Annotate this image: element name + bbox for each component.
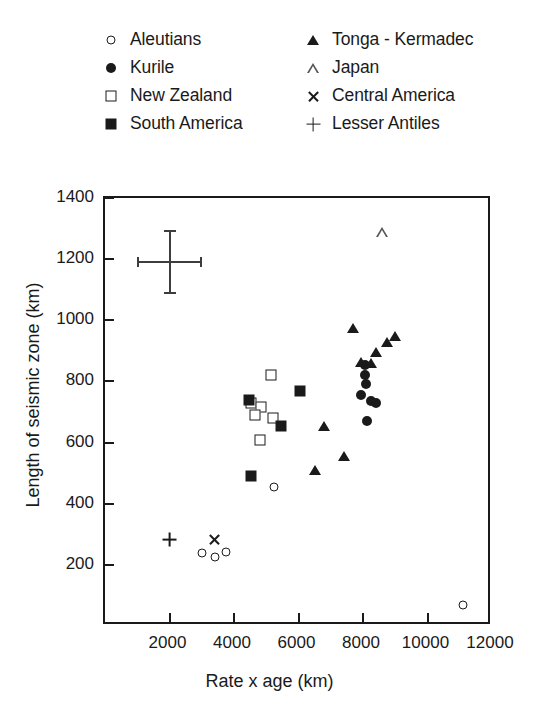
legend-marker-open-circle xyxy=(100,29,122,51)
cross-x-marker-icon xyxy=(208,533,221,546)
cross-x-marker-icon xyxy=(307,90,320,103)
filled-circle-marker-icon xyxy=(371,398,381,408)
y-tick xyxy=(105,319,114,321)
open-triangle-marker-icon xyxy=(376,227,388,237)
error-bar-cap-top xyxy=(164,230,176,232)
plot-area xyxy=(103,196,490,624)
x-tick-label: 4000 xyxy=(213,634,251,651)
legend-item-label: New Zealand xyxy=(130,87,232,105)
filled-circle-marker-icon xyxy=(362,416,372,426)
filled-triangle-marker-icon xyxy=(370,347,382,357)
legend-item-label: Japan xyxy=(332,59,379,77)
y-tick xyxy=(105,197,114,199)
x-tick xyxy=(427,613,429,622)
open-square-marker-icon xyxy=(254,434,265,445)
filled-square-marker-icon xyxy=(244,394,255,405)
filled-circle-marker-icon xyxy=(106,63,116,73)
filled-triangle-marker-icon xyxy=(365,358,377,368)
filled-square-marker-icon xyxy=(246,471,257,482)
legend-item-aleutians[interactable]: Aleutians xyxy=(100,26,243,54)
y-tick-label: 200 xyxy=(10,554,94,571)
legend-item-label: Central America xyxy=(332,87,455,105)
filled-square-marker-icon xyxy=(295,385,306,396)
filled-circle-marker-icon xyxy=(356,390,366,400)
x-tick xyxy=(233,613,235,622)
open-square-marker-icon xyxy=(106,91,117,102)
filled-triangle-marker-icon xyxy=(347,323,359,333)
legend-item-central-america[interactable]: Central America xyxy=(302,82,473,110)
legend-marker-filled-square xyxy=(100,113,122,135)
x-tick-label: 10000 xyxy=(402,634,449,651)
scatter-plot-figure: AleutiansKurileNew ZealandSouth America … xyxy=(0,0,539,718)
legend-item-label: Aleutians xyxy=(130,31,201,49)
x-tick-label: 8000 xyxy=(342,634,380,651)
filled-circle-marker-icon xyxy=(361,379,371,389)
filled-triangle-marker-icon xyxy=(309,465,321,475)
x-tick xyxy=(169,613,171,622)
y-tick-label: 1200 xyxy=(10,249,94,266)
x-tick-label: 6000 xyxy=(278,634,316,651)
error-bar-vertical xyxy=(169,230,171,294)
x-tick-label: 12000 xyxy=(466,634,513,651)
plus-marker-icon xyxy=(307,118,320,131)
x-axis-label: Rate x age (km) xyxy=(0,672,539,690)
plus-marker-icon xyxy=(163,533,176,546)
y-tick xyxy=(105,258,114,260)
open-circle-marker-icon xyxy=(210,553,219,562)
legend-marker-open-triangle xyxy=(302,57,324,79)
open-circle-marker-icon xyxy=(270,482,279,491)
filled-triangle-marker-icon xyxy=(318,421,330,431)
legend-item-label: Tonga - Kermadec xyxy=(332,31,473,49)
filled-triangle-marker-icon xyxy=(338,451,350,461)
filled-triangle-marker-icon xyxy=(307,35,319,45)
legend-item-label: Lesser Antiles xyxy=(332,115,440,133)
filled-square-marker-icon xyxy=(275,420,286,431)
open-circle-marker-icon xyxy=(221,547,230,556)
legend-item-lesser-antiles[interactable]: Lesser Antiles xyxy=(302,110,473,138)
y-tick-label: 1400 xyxy=(10,188,94,205)
legend-marker-open-square xyxy=(100,85,122,107)
legend-marker-cross-x xyxy=(302,85,324,107)
legend-item-new-zealand[interactable]: New Zealand xyxy=(100,82,243,110)
y-tick xyxy=(105,564,114,566)
open-circle-marker-icon xyxy=(458,600,467,609)
legend-item-japan[interactable]: Japan xyxy=(302,54,473,82)
legend-item-south-america[interactable]: South America xyxy=(100,110,243,138)
legend-column-right: Tonga - KermadecJapanCentral AmericaLess… xyxy=(302,26,473,138)
error-bar-cap-bottom xyxy=(164,292,176,294)
legend-column-left: AleutiansKurileNew ZealandSouth America xyxy=(100,26,243,138)
open-circle-marker-icon xyxy=(197,548,206,557)
x-tick-label: 2000 xyxy=(149,634,187,651)
legend-item-label: South America xyxy=(130,115,243,133)
open-square-marker-icon xyxy=(249,410,260,421)
legend-marker-filled-circle xyxy=(100,57,122,79)
y-axis-label: Length of seismic zone (km) xyxy=(24,245,42,545)
y-tick xyxy=(105,503,114,505)
open-square-marker-icon xyxy=(266,370,277,381)
error-bar-cap-right xyxy=(200,257,202,267)
legend-marker-plus xyxy=(302,113,324,135)
filled-square-marker-icon xyxy=(106,119,117,130)
legend-item-label: Kurile xyxy=(130,59,174,77)
legend-item-tonga-kermadec[interactable]: Tonga - Kermadec xyxy=(302,26,473,54)
filled-triangle-marker-icon xyxy=(389,331,401,341)
open-circle-marker-icon xyxy=(107,36,116,45)
x-tick xyxy=(362,613,364,622)
y-tick xyxy=(105,380,114,382)
legend-marker-filled-triangle xyxy=(302,29,324,51)
y-tick xyxy=(105,442,114,444)
error-bar-cap-left xyxy=(137,257,139,267)
chart-legend: AleutiansKurileNew ZealandSouth America … xyxy=(0,26,539,166)
legend-item-kurile[interactable]: Kurile xyxy=(100,54,243,82)
x-tick xyxy=(298,613,300,622)
open-triangle-marker-icon xyxy=(307,63,319,73)
